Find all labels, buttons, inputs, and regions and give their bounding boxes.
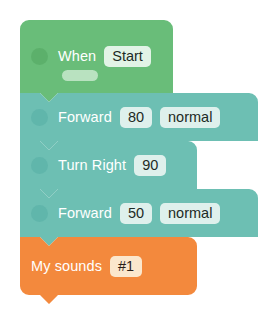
block-forward-50[interactable]: Forward 50 normal — [20, 189, 258, 237]
block-my-sounds[interactable]: My sounds #1 — [20, 237, 197, 295]
field-speed[interactable]: normal — [160, 107, 220, 128]
field-sound[interactable]: #1 — [110, 256, 142, 277]
drag-grip-icon[interactable] — [31, 48, 48, 65]
field-trigger[interactable]: Start — [104, 46, 151, 67]
inner-slot-pill[interactable] — [62, 70, 98, 81]
drag-grip-icon[interactable] — [31, 109, 48, 126]
block-turn-right-90[interactable]: Turn Right 90 — [20, 141, 197, 189]
block-turn-right-90-content: Turn Right 90 — [20, 141, 197, 189]
block-forward-80-label: Forward — [58, 110, 112, 125]
block-my-sounds-content: My sounds #1 — [20, 237, 197, 295]
field-distance[interactable]: 80 — [120, 107, 152, 128]
drag-grip-icon[interactable] — [31, 157, 48, 174]
block-when-start-label: When — [58, 49, 96, 64]
field-speed[interactable]: normal — [160, 203, 220, 224]
drag-grip-icon[interactable] — [31, 205, 48, 222]
field-angle[interactable]: 90 — [134, 155, 166, 176]
block-turn-right-90-label: Turn Right — [58, 158, 126, 173]
block-editor-canvas[interactable]: When Start Forward 80 normal Turn Right … — [0, 0, 273, 311]
block-forward-80-content: Forward 80 normal — [20, 93, 258, 141]
block-forward-50-label: Forward — [58, 206, 112, 221]
block-when-start[interactable]: When Start — [20, 20, 173, 93]
field-distance[interactable]: 50 — [120, 203, 152, 224]
block-forward-50-content: Forward 50 normal — [20, 189, 258, 237]
block-when-start-content: When Start — [20, 20, 173, 93]
block-my-sounds-label: My sounds — [31, 259, 102, 274]
block-forward-80[interactable]: Forward 80 normal — [20, 93, 258, 141]
